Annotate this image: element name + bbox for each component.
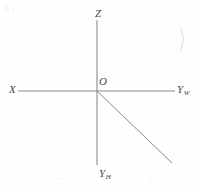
y-height-axis-label: YH: [99, 168, 110, 179]
diagonal-ray-line: [97, 91, 172, 163]
y-height-axis-label-base: Y: [99, 167, 105, 179]
y-width-axis-label-base: Y: [177, 83, 183, 95]
y-width-axis-label-subscript: W: [184, 89, 190, 97]
x-axis-label: X: [9, 84, 16, 95]
y-width-axis-label: YW: [177, 84, 189, 95]
z-axis-label: Z: [95, 8, 101, 19]
scan-artifact-curve: [180, 29, 183, 51]
coordinate-axes-figure: Z X YW YH O: [0, 0, 200, 188]
axes-drawing: [0, 0, 200, 188]
y-height-axis-label-subscript: H: [106, 173, 111, 181]
origin-label: O: [99, 76, 107, 87]
